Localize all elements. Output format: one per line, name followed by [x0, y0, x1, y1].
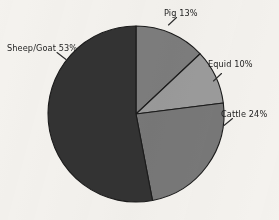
pie-label-sheep-goat: Sheep/Goat 53% [7, 44, 77, 52]
pie-chart-figure: Pig 13% Equid 10% Cattle 24% Sheep/Goat … [0, 0, 279, 220]
leader-line-cattle [224, 119, 233, 126]
leader-line-sheep-goat [57, 53, 66, 60]
pie-label-pig: Pig 13% [164, 9, 198, 17]
pie-label-cattle: Cattle 24% [221, 110, 267, 118]
leader-line-pig [169, 18, 177, 26]
pie-label-equid: Equid 10% [208, 60, 253, 68]
